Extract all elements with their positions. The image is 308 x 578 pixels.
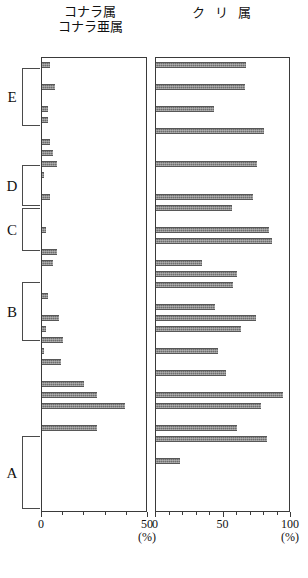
bracket-shape — [22, 282, 40, 341]
bar — [42, 315, 59, 321]
bar — [42, 117, 48, 123]
bar — [42, 139, 50, 145]
bar — [42, 381, 84, 387]
axis-tick-label: 50 — [217, 518, 229, 531]
bar — [156, 458, 180, 464]
bar — [156, 304, 215, 310]
bar — [156, 194, 253, 200]
zone-label: A — [4, 465, 20, 480]
bar — [42, 106, 48, 112]
zone-label: E — [4, 90, 20, 105]
bar — [42, 326, 46, 332]
axis-tick-minor — [263, 512, 264, 515]
bracket-shape — [22, 68, 40, 126]
bar — [156, 425, 237, 431]
bar — [156, 370, 226, 376]
axis-tick-minor — [277, 512, 278, 515]
panel-title-right: ク リ 属 — [158, 5, 288, 20]
bar — [156, 392, 283, 398]
x-axis-right: 050100(%) — [155, 512, 290, 542]
bar — [156, 128, 264, 134]
axis-tick-minor — [196, 512, 197, 515]
bracket-shape — [22, 436, 40, 509]
bar — [156, 326, 241, 332]
bracket-shape — [22, 208, 40, 251]
zone-label: B — [4, 304, 20, 319]
bar — [156, 403, 261, 409]
bar — [156, 84, 245, 90]
bar — [42, 403, 125, 409]
zone-label: C — [4, 222, 20, 237]
axis-tick-minor — [126, 512, 127, 515]
bar — [42, 337, 63, 343]
bar — [156, 271, 237, 277]
axis-tick-label: 0 — [38, 518, 44, 531]
bar — [156, 238, 272, 244]
zone-bracket-b: B — [14, 282, 40, 341]
bar — [42, 62, 50, 68]
bar — [42, 249, 57, 255]
bar — [42, 260, 53, 266]
axis-tick-minor — [236, 512, 237, 515]
panel-title-left: コナラ属 コナラ亜属 — [30, 4, 150, 34]
bars-right — [156, 58, 289, 511]
axis-tick-minor — [209, 512, 210, 515]
bar — [42, 425, 97, 431]
bar — [42, 161, 57, 167]
axis-tick-minor — [169, 512, 170, 515]
axis-tick-minor — [62, 512, 63, 515]
bars-left — [42, 58, 146, 511]
zone-bracket-a: A — [14, 436, 40, 509]
bar — [156, 106, 214, 112]
zone-label: D — [4, 178, 20, 193]
bar — [156, 227, 269, 233]
bar — [42, 392, 97, 398]
bar — [156, 62, 246, 68]
bar — [156, 282, 233, 288]
zone-bracket-e: E — [14, 68, 40, 126]
bar — [156, 348, 218, 354]
axis-tick-label: 0 — [152, 518, 158, 531]
bar — [156, 205, 232, 211]
bar — [156, 315, 256, 321]
plot-panel-right — [155, 57, 290, 512]
bar — [156, 260, 202, 266]
bracket-shape — [22, 165, 40, 206]
bar — [42, 227, 46, 233]
zone-bracket-c: C — [14, 208, 40, 251]
pollen-diagram-figure: コナラ属 コナラ亜属 ク リ 属 EDCBA 050(%) 050100(%) — [0, 0, 308, 578]
bar — [42, 194, 50, 200]
plot-panel-left — [41, 57, 147, 512]
bar — [42, 348, 44, 354]
axis-unit-label: (%) — [138, 531, 156, 544]
bar — [156, 161, 257, 167]
axis-tick-minor — [105, 512, 106, 515]
axis-tick-minor — [83, 512, 84, 515]
bar — [42, 172, 44, 178]
bar — [42, 359, 61, 365]
zone-bracket-d: D — [14, 165, 40, 206]
axis-tick-minor — [250, 512, 251, 515]
x-axis-left: 050(%) — [41, 512, 147, 542]
bar — [42, 293, 48, 299]
bar — [42, 150, 53, 156]
axis-tick-minor — [182, 512, 183, 515]
axis-unit-label: (%) — [281, 531, 299, 544]
bar — [156, 436, 267, 442]
bar — [42, 84, 55, 90]
